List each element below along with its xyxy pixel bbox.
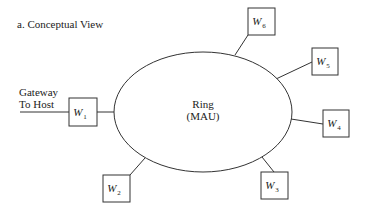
w2-label: W	[107, 182, 117, 194]
w4-subscript: 4	[337, 124, 341, 132]
w6-label: W	[252, 15, 262, 27]
wire-w2	[130, 158, 145, 175]
workstation-w6: W6	[248, 8, 275, 35]
workstation-w2: W2	[103, 175, 130, 202]
workstation-w4: W4	[323, 110, 349, 137]
workstation-w1: W1	[69, 98, 97, 126]
gateway-label-line1: Gateway	[19, 86, 59, 98]
w3-subscript: 3	[275, 186, 279, 194]
workstation-w3: W3	[261, 172, 288, 199]
ring-label: Ring	[192, 98, 214, 110]
diagram-title: a. Conceptual View	[17, 18, 103, 30]
ring-sublabel: (MAU)	[187, 110, 220, 123]
w5-subscript: 5	[326, 62, 330, 70]
w2-subscript: 2	[117, 189, 121, 197]
ring-topology-diagram: a. Conceptual View Gateway To Host Ring …	[0, 0, 368, 220]
gateway-label-line2: To Host	[19, 98, 54, 110]
w6-subscript: 6	[262, 22, 266, 30]
w1-subscript: 1	[83, 113, 87, 121]
wire-w4	[291, 119, 323, 124]
wire-w5	[276, 62, 312, 79]
workstation-w5: W5	[312, 48, 338, 75]
w4-label: W	[327, 117, 337, 129]
w5-label: W	[316, 55, 326, 67]
w1-label: W	[73, 106, 83, 118]
wire-w3	[262, 157, 274, 172]
wire-w6	[235, 35, 248, 55]
w3-label: W	[265, 179, 275, 191]
